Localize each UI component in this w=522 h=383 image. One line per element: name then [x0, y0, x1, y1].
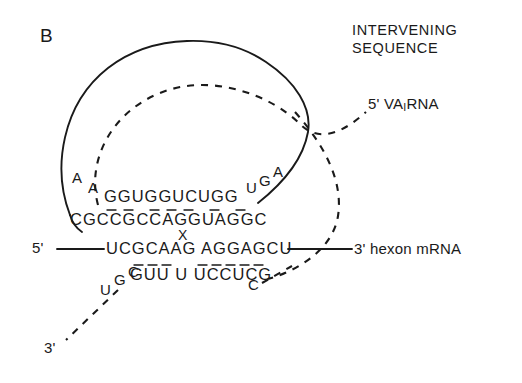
mrna-5prime-label: 5' — [32, 240, 44, 255]
va-rna-label-text: 5' VA — [368, 95, 403, 112]
va-arc-base-u: U — [246, 180, 257, 195]
va-bottom-strand: CGCCGCCAGGUAGGC — [70, 211, 267, 228]
diagram-vector-layer — [0, 0, 522, 383]
va-top-strand: GGUGGUCUGG — [104, 188, 239, 205]
va-loop-base-a1: A — [72, 170, 83, 185]
panel-label-b: B — [40, 26, 53, 45]
va-tail-base-c: C — [128, 264, 139, 279]
va-rna-label: 5' VAIRNA — [368, 96, 439, 113]
va-rna-label-tail: RNA — [406, 95, 438, 112]
intervening-sequence-heading-line1: INTERVENING — [352, 22, 457, 40]
va-arc-base-a: A — [273, 164, 284, 179]
va-3prime-label: 3' — [44, 340, 56, 355]
va-arc-base-g: G — [259, 173, 271, 188]
va-tail-base-g: G — [114, 272, 126, 287]
figure-canvas: B INTERVENING SEQUENCE 5' VAIRNA A A GGU… — [0, 0, 522, 383]
va-tail-base-u: U — [100, 282, 111, 297]
hexon-3prime-label: 3' hexon mRNA — [354, 241, 461, 256]
intervening-sequence-heading-line2: SEQUENCE — [352, 40, 438, 58]
hexon-mrna-strand: UCGCAAG AGGAGCU — [106, 240, 292, 257]
va-tail-right-base-c: C — [248, 277, 259, 292]
va-loop-base-a2: A — [88, 180, 99, 195]
